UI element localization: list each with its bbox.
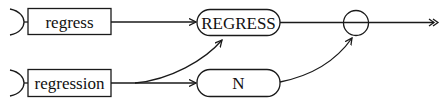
syntax-diagram: regress regression REGRESS N: [0, 0, 446, 105]
label-REGRESS: REGRESS: [201, 14, 276, 33]
edge-N-join: [280, 38, 352, 82]
entry-bracket-top: [10, 9, 24, 35]
label-N: N: [232, 74, 244, 93]
label-regression: regression: [35, 74, 105, 93]
label-regress: regress: [45, 13, 93, 32]
entry-bracket-bottom: [10, 70, 24, 96]
edge-regression-REGRESS: [135, 40, 222, 83]
